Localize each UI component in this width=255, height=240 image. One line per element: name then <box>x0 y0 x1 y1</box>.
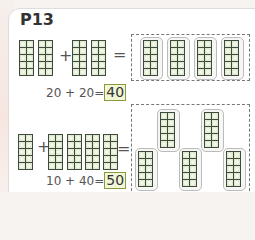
ten-frame-cell <box>178 55 184 61</box>
ten-frame-cell <box>139 180 145 186</box>
ten-frame-cell <box>86 135 92 141</box>
ten-frame-cell <box>104 156 110 162</box>
ten-frame-cell <box>99 69 105 75</box>
ten-frame-cell <box>39 62 45 68</box>
ten-frame-cell <box>198 55 204 61</box>
ten-frame-cell <box>168 113 174 119</box>
ten-frame-cell <box>80 62 86 68</box>
ten-frame-cell <box>232 55 238 61</box>
ten-frame-cell <box>183 166 189 172</box>
ten-frame-cell <box>178 62 184 68</box>
ten-frame-cell <box>146 159 152 165</box>
ten-frame-cell <box>144 55 150 61</box>
ten-frame-cell <box>73 62 79 68</box>
ten-frame-cell <box>75 156 81 162</box>
ten-frame-cell <box>190 180 196 186</box>
ten-frame-cell <box>56 135 62 141</box>
ten-frame-cell <box>46 41 52 47</box>
ten-frame-cell <box>46 48 52 54</box>
ten-frame-cell <box>86 142 92 148</box>
ten-frame-cell <box>151 62 157 68</box>
ten-frame-cell <box>46 55 52 61</box>
ten-frame-cell <box>183 152 189 158</box>
ten-frame-cell <box>68 135 74 141</box>
ten-frame-cell <box>183 159 189 165</box>
ten-frame-cell <box>144 62 150 68</box>
answer-box-1[interactable]: 40 <box>104 84 126 101</box>
equals-sign-2: = <box>117 139 130 158</box>
ten-frame-cell <box>56 156 62 162</box>
ten-frame-cell <box>178 48 184 54</box>
equation-1: 20 + 20=40 <box>46 84 126 101</box>
ten-frame-cell <box>73 41 79 47</box>
ten-rod <box>38 40 53 76</box>
ten-frame-cell <box>99 55 105 61</box>
ten-frame-cell <box>20 69 26 75</box>
ten-frame-cell <box>93 149 99 155</box>
ten-frame-cell <box>161 127 167 133</box>
ten-frame-cell <box>46 62 52 68</box>
ten-frame-cell <box>161 113 167 119</box>
ten-frame-cell <box>190 166 196 172</box>
ten-rod <box>226 151 241 187</box>
ten-rod <box>143 40 158 76</box>
equals-sign-1: = <box>113 45 126 64</box>
ten-frame-cell <box>68 149 74 155</box>
ten-frame-cell <box>75 163 81 169</box>
answer-box-2[interactable]: 50 <box>104 172 126 189</box>
ten-rod <box>103 134 118 170</box>
ten-frame-cell <box>19 149 25 155</box>
ten-frame-cell <box>168 127 174 133</box>
ten-frame-cell <box>19 135 25 141</box>
ten-frame-cell <box>39 48 45 54</box>
ten-frame-cell <box>92 48 98 54</box>
ten-frame-cell <box>20 55 26 61</box>
ten-frame-cell <box>111 149 117 155</box>
ten-frame-cell <box>151 69 157 75</box>
ten-rod <box>224 40 239 76</box>
ten-frame-cell <box>178 69 184 75</box>
ten-frame-cell <box>46 69 52 75</box>
ten-frame-cell <box>26 156 32 162</box>
ten-frame-cell <box>86 163 92 169</box>
ten-frame-cell <box>151 55 157 61</box>
ten-frame-cell <box>227 152 233 158</box>
ten-frame-cell <box>75 142 81 148</box>
ten-frame-cell <box>73 48 79 54</box>
ten-frame-cell <box>171 48 177 54</box>
ten-frame-cell <box>146 166 152 172</box>
ten-frame-cell <box>80 48 86 54</box>
ten-rod <box>72 40 87 76</box>
ten-frame-cell <box>75 149 81 155</box>
ten-frame-cell <box>39 41 45 47</box>
equation-text-2: 10 + 40= <box>46 174 104 188</box>
ten-frame-cell <box>27 41 33 47</box>
equation-2: 10 + 40=50 <box>46 172 126 189</box>
ten-frame-cell <box>171 62 177 68</box>
ten-frame-cell <box>205 127 211 133</box>
ten-frame-cell <box>198 69 204 75</box>
ten-frame-cell <box>161 120 167 126</box>
equation-text-1: 20 + 20= <box>46 86 104 100</box>
ten-frame-cell <box>205 41 211 47</box>
ten-frame-cell <box>168 120 174 126</box>
ten-frame-cell <box>161 141 167 147</box>
ten-frame-cell <box>183 173 189 179</box>
ten-frame-cell <box>104 163 110 169</box>
ten-frame-cell <box>161 134 167 140</box>
ten-frame-cell <box>178 41 184 47</box>
ten-frame-cell <box>104 149 110 155</box>
ten-frame-cell <box>168 134 174 140</box>
ten-rod <box>138 151 153 187</box>
ten-frame-cell <box>225 62 231 68</box>
ten-frame-cell <box>171 69 177 75</box>
ten-frame-cell <box>198 48 204 54</box>
ten-rod <box>197 40 212 76</box>
ten-frame-cell <box>171 55 177 61</box>
ten-frame-cell <box>232 48 238 54</box>
ten-frame-cell <box>92 69 98 75</box>
ten-frame-cell <box>49 156 55 162</box>
ten-frame-cell <box>19 156 25 162</box>
ten-frame-cell <box>183 180 189 186</box>
ten-frame-cell <box>212 127 218 133</box>
